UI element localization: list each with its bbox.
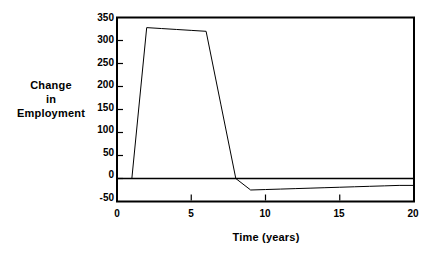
plot-area	[0, 0, 437, 260]
chart-figure: Change in Employment Time (years) 350 30…	[0, 0, 437, 260]
plot-frame	[117, 18, 414, 202]
